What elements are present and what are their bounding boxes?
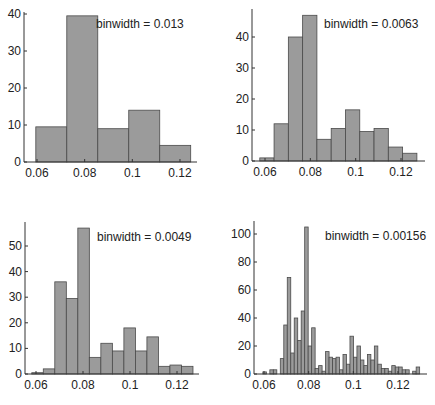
histogram-bar bbox=[353, 357, 356, 374]
histogram-bar bbox=[378, 364, 381, 374]
x-tick-label: 0.06 bbox=[25, 166, 49, 180]
y-tick-label: 20 bbox=[8, 81, 22, 95]
x-tick-label: 0.1 bbox=[122, 378, 139, 392]
y-tick-label: 20 bbox=[236, 92, 250, 106]
binwidth-annotation: binwidth = 0.013 bbox=[96, 17, 184, 31]
histogram-bar bbox=[67, 16, 98, 162]
histogram-bar bbox=[374, 346, 377, 374]
y-tick-label: 40 bbox=[236, 30, 250, 44]
histogram-bar bbox=[350, 336, 353, 374]
x-tick-label: 0.06 bbox=[252, 378, 276, 392]
y-tick-label: 40 bbox=[9, 265, 23, 279]
histogram-bar bbox=[129, 110, 160, 162]
histogram-bar bbox=[291, 353, 294, 374]
histogram-bar bbox=[55, 282, 67, 374]
x-tick-label: 0.08 bbox=[71, 378, 95, 392]
histogram-bar bbox=[406, 370, 409, 374]
histogram-bar bbox=[402, 370, 405, 374]
histogram-bar bbox=[343, 354, 346, 374]
histogram-bar bbox=[135, 351, 147, 374]
histogram-bar bbox=[364, 366, 367, 374]
x-tick-label: 0.1 bbox=[347, 165, 364, 179]
histogram-bar bbox=[374, 128, 388, 161]
histogram-bar bbox=[43, 369, 55, 374]
histogram-bar bbox=[270, 370, 273, 374]
x-tick-label: 0.1 bbox=[124, 166, 141, 180]
histogram-bar bbox=[357, 346, 360, 374]
x-tick-label: 0.12 bbox=[389, 165, 413, 179]
y-tick-label: 40 bbox=[238, 311, 252, 325]
y-tick-label: 0 bbox=[14, 155, 21, 169]
histogram-bar bbox=[340, 370, 343, 374]
histogram-bar bbox=[89, 357, 101, 374]
histogram-bar bbox=[317, 139, 331, 161]
histogram-bar bbox=[399, 367, 402, 374]
histogram-bar bbox=[371, 360, 374, 374]
histogram-bar bbox=[346, 364, 349, 374]
histogram-bar bbox=[66, 298, 78, 374]
bars bbox=[36, 16, 191, 162]
histogram-panel-2: 0102030400.060.080.10.12binwidth = 0.006… bbox=[236, 9, 425, 179]
histogram-figure: 0102030400.060.080.10.12binwidth = 0.013… bbox=[0, 0, 435, 405]
histogram-bar bbox=[284, 325, 287, 374]
y-tick-label: 0 bbox=[244, 367, 251, 381]
histogram-bar bbox=[305, 227, 308, 374]
histogram-bar bbox=[160, 145, 191, 162]
histogram-bar bbox=[147, 337, 159, 374]
histogram-bar bbox=[416, 367, 419, 374]
y-tick-label: 20 bbox=[9, 316, 23, 330]
y-tick-label: 40 bbox=[8, 7, 22, 21]
y-tick-label: 80 bbox=[238, 255, 252, 269]
histogram-bar bbox=[274, 124, 288, 161]
histogram-bar bbox=[331, 128, 345, 161]
binwidth-annotation: binwidth = 0.00156 bbox=[325, 229, 426, 243]
histogram-bar bbox=[308, 346, 311, 374]
x-tick-label: 0.12 bbox=[165, 378, 189, 392]
histogram-bar bbox=[303, 15, 317, 161]
histogram-bar bbox=[319, 366, 322, 374]
y-tick-label: 50 bbox=[9, 239, 23, 253]
y-tick-label: 60 bbox=[238, 283, 252, 297]
histogram-bar bbox=[78, 228, 90, 374]
histogram-bar bbox=[345, 110, 359, 161]
histogram-bar bbox=[385, 368, 388, 374]
histogram-bar bbox=[360, 132, 374, 161]
y-tick-label: 20 bbox=[238, 339, 252, 353]
x-tick-label: 0.08 bbox=[297, 378, 321, 392]
x-tick-label: 0.12 bbox=[386, 378, 410, 392]
histogram-bar bbox=[287, 277, 290, 374]
y-tick-label: 10 bbox=[8, 118, 22, 132]
histogram-panel-4: 0204060801000.060.080.10.12binwidth = 0.… bbox=[231, 221, 427, 392]
histogram-bar bbox=[392, 366, 395, 374]
histogram-bar bbox=[101, 343, 113, 374]
bars bbox=[260, 15, 417, 161]
histogram-bar bbox=[336, 357, 339, 374]
bars bbox=[263, 227, 420, 374]
histogram-bar bbox=[273, 370, 276, 374]
y-tick-label: 0 bbox=[242, 154, 249, 168]
histogram-bar bbox=[288, 37, 302, 161]
histogram-panel-1: 0102030400.060.080.10.12binwidth = 0.013 bbox=[8, 7, 197, 180]
y-tick-label: 30 bbox=[9, 290, 23, 304]
binwidth-annotation: binwidth = 0.0063 bbox=[324, 17, 419, 31]
bars bbox=[32, 228, 193, 374]
histogram-bar bbox=[315, 368, 318, 374]
histogram-bar bbox=[112, 351, 124, 374]
histogram-bar bbox=[280, 359, 283, 374]
histogram-bar bbox=[329, 357, 332, 374]
histogram-bar bbox=[403, 153, 417, 161]
x-tick-label: 0.12 bbox=[168, 166, 192, 180]
x-tick-label: 0.06 bbox=[24, 378, 48, 392]
binwidth-annotation: binwidth = 0.0049 bbox=[97, 230, 192, 244]
y-tick-label: 30 bbox=[8, 44, 22, 58]
histogram-bar bbox=[388, 147, 402, 161]
histogram-bar bbox=[367, 354, 370, 374]
histogram-bar bbox=[181, 366, 193, 374]
histogram-bar bbox=[36, 127, 67, 162]
histogram-bar bbox=[98, 129, 129, 162]
y-tick-label: 30 bbox=[236, 61, 250, 75]
y-tick-label: 0 bbox=[15, 367, 22, 381]
histogram-bar bbox=[170, 365, 182, 374]
histogram-bar bbox=[301, 311, 304, 374]
x-tick-label: 0.1 bbox=[345, 378, 362, 392]
